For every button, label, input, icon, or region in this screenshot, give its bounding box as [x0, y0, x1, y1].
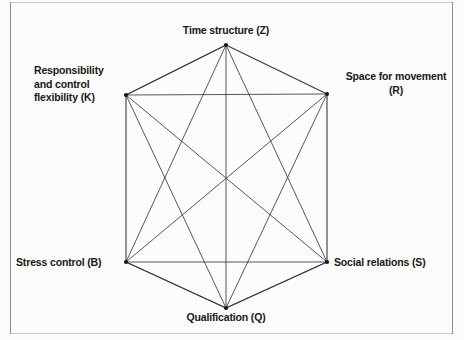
node-label-space-for-movement: Space for movement(R)	[334, 70, 458, 97]
graph-edge-B-Q	[126, 262, 226, 308]
vertex-layer	[124, 43, 329, 310]
node-label-line: (R)	[389, 84, 403, 96]
graph-edge-Z-S	[226, 45, 327, 262]
graph-edge-Z-B	[126, 45, 226, 262]
node-label-line: Responsibility	[34, 64, 104, 76]
figure-container: Time structure (Z) Space for movement(R)…	[0, 0, 464, 340]
node-label-qualification: Qualification (Q)	[163, 311, 289, 325]
node-label-time-structure: Time structure (Z)	[163, 24, 289, 38]
edge-layer	[126, 45, 327, 308]
graph-vertex-space-for-movement	[325, 92, 329, 96]
graph-edge-R-K	[126, 94, 327, 95]
node-label-line: Time structure (Z)	[183, 24, 269, 36]
node-label-responsibility-and-control-flexibility: Responsibilityand controlflexibility (K)	[34, 64, 126, 105]
graph-edge-Z-R	[226, 45, 327, 94]
graph-vertex-stress-control	[124, 260, 128, 264]
graph-vertex-time-structure	[224, 43, 228, 47]
graph-edge-R-Q	[226, 94, 327, 308]
graph-vertex-qualification	[224, 306, 228, 310]
node-label-line: flexibility (K)	[34, 91, 95, 103]
hexagon-complete-graph	[0, 0, 464, 340]
graph-edge-Q-S	[226, 262, 327, 308]
graph-vertex-social-relations	[325, 260, 329, 264]
node-label-line: Qualification (Q)	[186, 311, 265, 323]
graph-edge-K-Q	[126, 95, 226, 308]
node-label-line: and control	[34, 78, 90, 90]
node-label-line: Space for movement	[346, 70, 447, 82]
node-label-line: Social relations (S)	[334, 256, 426, 268]
node-label-social-relations: Social relations (S)	[334, 256, 452, 270]
node-label-line: Stress control (B)	[16, 256, 101, 268]
node-label-stress-control: Stress control (B)	[16, 256, 122, 270]
graph-edge-Z-K	[126, 45, 226, 95]
